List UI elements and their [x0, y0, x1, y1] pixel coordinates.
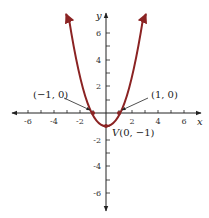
y-tick-label: -6	[93, 189, 101, 198]
x-tick-label: 2	[129, 117, 134, 126]
y-axis-label: y	[95, 10, 102, 21]
y-tick-label: 2	[96, 82, 101, 91]
curve-arrow-left-icon	[66, 14, 70, 22]
y-axis	[106, 13, 110, 211]
y-tick-label: -4	[93, 162, 101, 171]
x-tick-label: -2	[76, 117, 84, 126]
y-tick-label: 4	[96, 56, 101, 65]
annotation-vertex: V(0, −1)	[112, 127, 155, 138]
parabola-graph: -6 -4 -2 2 4 6 x 6 4 2 -2 -4 -6 y	[0, 0, 209, 218]
y-tick-label: 6	[96, 29, 101, 38]
x-tick-label: 6	[181, 117, 186, 126]
x-tick-label: -6	[24, 117, 32, 126]
vertex-coords: (0, −1)	[119, 127, 154, 138]
x-tick-label: 4	[155, 117, 160, 126]
x-axis-label: x	[197, 116, 203, 127]
annotation-left-intercept: (−1, 0)	[33, 89, 68, 100]
curve-arrow-right-icon	[143, 14, 147, 22]
point-left-intercept	[91, 111, 95, 115]
point-vertex	[104, 124, 108, 128]
y-tick-label: -2	[93, 136, 101, 145]
annotation-right-intercept: (1, 0)	[151, 89, 178, 100]
point-right-intercept	[117, 111, 121, 115]
x-tick-label: -4	[50, 117, 58, 126]
